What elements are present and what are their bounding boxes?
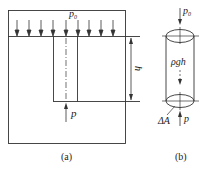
area-label: ΔA	[157, 115, 171, 126]
surface-pressure-label: p0	[68, 8, 77, 20]
top-pressure-label: p0	[182, 5, 191, 17]
depth-label: h	[133, 66, 144, 71]
caption-a: (a)	[61, 151, 72, 163]
caption-b: (b)	[175, 151, 187, 163]
figure-b: p0 ρgh ΔA p (b)	[157, 5, 199, 163]
hydrostatic-pressure-diagram: p0 p h (a) p0 ρgh	[0, 0, 209, 169]
bottom-pressure-label: p	[70, 107, 77, 119]
bottom-pressure-label-b: p	[183, 113, 189, 124]
area-leader-line	[167, 106, 175, 115]
surface-pressure-arrows	[15, 20, 115, 36]
figure-a: p0 p h (a)	[8, 8, 144, 163]
weight-label: ρgh	[170, 56, 186, 67]
